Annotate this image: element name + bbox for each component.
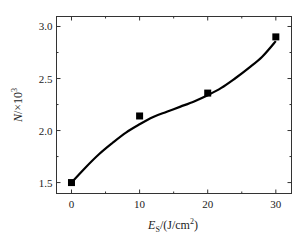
square-marker [136, 112, 143, 119]
fit-curve [72, 41, 276, 183]
x-axis-ticks: 0102030 [69, 17, 282, 210]
fit-line-path [72, 41, 276, 183]
x-tick-label: 10 [134, 198, 146, 210]
square-marker [272, 33, 279, 40]
x-tick-label: 20 [202, 198, 214, 210]
plot-frame [57, 17, 292, 194]
x-tick-label: 30 [270, 198, 282, 210]
x-tick-label: 0 [69, 198, 75, 210]
square-marker [204, 90, 211, 97]
y-tick-label: 2.5 [39, 73, 53, 85]
x-axis-title: ES/(J/cm2) [147, 217, 198, 234]
y-tick-label: 3.0 [39, 20, 53, 32]
y-tick-label: 1.5 [39, 177, 53, 189]
y-axis-title: N/×103 [10, 88, 25, 123]
square-marker [68, 179, 75, 186]
chart: 1.52.02.53.0 0102030 N/×103 ES/(J/cm2) [0, 0, 306, 240]
y-axis-ticks: 1.52.02.53.0 [39, 20, 292, 188]
y-tick-label: 2.0 [39, 125, 53, 137]
